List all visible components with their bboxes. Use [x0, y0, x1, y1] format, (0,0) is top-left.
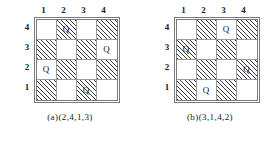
- board-cell[interactable]: [97, 20, 117, 40]
- board-cell[interactable]: [37, 40, 57, 60]
- board-cell[interactable]: [197, 40, 217, 60]
- queen-marker: Q: [217, 20, 236, 39]
- board-cell[interactable]: [177, 80, 197, 100]
- queen-marker: Q: [77, 80, 96, 100]
- empty-cell-marker: [197, 20, 216, 39]
- empty-cell-marker: [177, 60, 196, 79]
- board-cell[interactable]: Q: [177, 40, 197, 60]
- board-a-row-label: 2: [21, 57, 34, 77]
- board-cell[interactable]: [177, 60, 197, 80]
- empty-cell-marker: [57, 80, 76, 100]
- board-cell[interactable]: Q: [97, 40, 117, 60]
- board-a-row-label: 3: [21, 37, 34, 57]
- board-row: Q: [177, 60, 257, 80]
- board-cell[interactable]: Q: [37, 60, 57, 80]
- board-cell[interactable]: [217, 40, 237, 60]
- board-a-caption: (a)(2,4,1,3): [47, 112, 93, 122]
- board-row: Q: [37, 60, 117, 80]
- board-cell[interactable]: [217, 60, 237, 80]
- board-row: Q: [177, 40, 257, 60]
- empty-cell-marker: [197, 60, 216, 79]
- board-b-col-label: 1: [174, 3, 194, 17]
- empty-cell-marker: [217, 80, 236, 100]
- empty-cell-marker: [237, 20, 257, 39]
- board-a-outer-frame: QQQQ: [34, 17, 120, 103]
- board-b-col-label: 3: [214, 3, 234, 17]
- board-cell[interactable]: [237, 80, 257, 100]
- board-a-grid-column: 1234QQQQ: [34, 3, 120, 103]
- board-cell[interactable]: [97, 60, 117, 80]
- board-cell[interactable]: Q: [77, 80, 97, 100]
- board-a-col-labels: 1234: [34, 3, 120, 17]
- empty-cell-marker: [177, 20, 196, 39]
- board-cell[interactable]: [237, 20, 257, 40]
- board-b-row-label: 4: [161, 17, 174, 37]
- queen-marker: Q: [237, 60, 257, 79]
- board-b-grid: QQQQ: [176, 19, 258, 101]
- board-a-col-label: 1: [34, 3, 54, 17]
- board-b-caption: (b)(3,1,4,2): [187, 112, 233, 122]
- board-b-block: 43211234QQQQ: [161, 3, 260, 103]
- board-cell[interactable]: [57, 80, 77, 100]
- board-cell[interactable]: Q: [217, 20, 237, 40]
- board-cell[interactable]: [177, 20, 197, 40]
- empty-cell-marker: [217, 40, 236, 59]
- board-a-block: 43211234QQQQ: [21, 3, 120, 103]
- board-row: Q: [37, 40, 117, 60]
- board-b-row-label: 1: [161, 77, 174, 97]
- empty-cell-marker: [37, 40, 56, 59]
- board-a-col-label: 3: [74, 3, 94, 17]
- empty-cell-marker: [77, 40, 96, 59]
- board-b-row-label: 2: [161, 57, 174, 77]
- empty-cell-marker: [217, 60, 236, 79]
- board-a-col-label: 2: [54, 3, 74, 17]
- board-cell[interactable]: [77, 60, 97, 80]
- board-b-row-labels: 4321: [161, 17, 174, 97]
- board-a-row-labels: 4321: [21, 17, 34, 97]
- empty-cell-marker: [57, 60, 76, 79]
- queen-marker: Q: [197, 80, 216, 100]
- board-cell[interactable]: [37, 20, 57, 40]
- empty-cell-marker: [57, 40, 76, 59]
- board-row: Q: [177, 20, 257, 40]
- queen-marker: Q: [37, 60, 56, 79]
- figure-board-b: 43211234QQQQ(b)(3,1,4,2): [140, 0, 280, 122]
- empty-cell-marker: [97, 20, 117, 39]
- board-a-row-label: 1: [21, 77, 34, 97]
- figure-board-a: 43211234QQQQ(a)(2,4,1,3): [0, 0, 140, 122]
- board-cell[interactable]: [37, 80, 57, 100]
- board-cell[interactable]: Q: [237, 60, 257, 80]
- empty-cell-marker: [97, 80, 117, 100]
- queen-marker: Q: [177, 40, 196, 59]
- board-cell[interactable]: [57, 60, 77, 80]
- board-b-col-label: 4: [234, 3, 254, 17]
- board-row: Q: [177, 80, 257, 100]
- board-cell[interactable]: Q: [57, 20, 77, 40]
- board-cell[interactable]: [97, 80, 117, 100]
- board-b-row-label: 3: [161, 37, 174, 57]
- empty-cell-marker: [237, 80, 257, 100]
- board-a-grid: QQQQ: [36, 19, 118, 101]
- board-cell[interactable]: [197, 60, 217, 80]
- board-a-row-label: 4: [21, 17, 34, 37]
- empty-cell-marker: [37, 20, 56, 39]
- empty-cell-marker: [37, 80, 56, 100]
- empty-cell-marker: [177, 80, 196, 100]
- board-b-grid-column: 1234QQQQ: [174, 3, 260, 103]
- board-cell[interactable]: [237, 40, 257, 60]
- empty-cell-marker: [237, 40, 257, 59]
- board-row: Q: [37, 20, 117, 40]
- board-cell[interactable]: [57, 40, 77, 60]
- board-cell[interactable]: Q: [197, 80, 217, 100]
- empty-cell-marker: [97, 60, 117, 79]
- board-row: Q: [37, 80, 117, 100]
- board-cell[interactable]: [77, 40, 97, 60]
- board-cell[interactable]: [197, 20, 217, 40]
- queen-marker: Q: [97, 40, 117, 59]
- board-b-col-label: 2: [194, 3, 214, 17]
- board-cell[interactable]: [77, 20, 97, 40]
- board-cell[interactable]: [217, 80, 237, 100]
- board-b-outer-frame: QQQQ: [174, 17, 260, 103]
- board-a-col-label: 4: [94, 3, 114, 17]
- figure-container: 43211234QQQQ(a)(2,4,1,3)43211234QQQQ(b)(…: [0, 0, 280, 142]
